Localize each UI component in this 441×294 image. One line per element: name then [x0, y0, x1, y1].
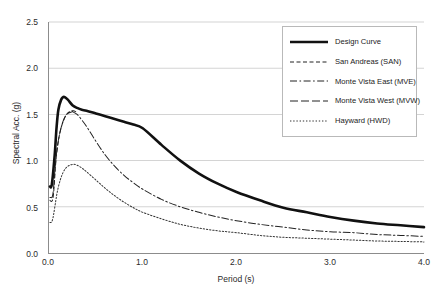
- legend-line-swatch: [290, 76, 328, 86]
- x-axis-tick-label: 3.0: [324, 258, 336, 267]
- legend-item-label: Monte Vista East (MVE): [335, 78, 416, 86]
- legend-item-label: Hayward (HWD): [335, 117, 390, 125]
- y-axis-tick-label: 0.0: [26, 250, 38, 259]
- y-axis-tick-label: 2.0: [26, 64, 38, 73]
- series-line-hayward-hwd: [50, 164, 424, 242]
- series-line-monte-vista-west-mvw: [50, 112, 73, 198]
- x-axis-tick-label: 4.0: [418, 258, 430, 267]
- legend-item[interactable]: San Andreas (SAN): [290, 53, 410, 71]
- legend-item-label: Monte Vista West (MVW): [335, 97, 420, 105]
- x-axis-tick-label: 2.0: [230, 258, 242, 267]
- y-axis-tick-label: 1.5: [26, 111, 38, 120]
- y-axis-tick-label: 0.5: [26, 204, 38, 213]
- x-axis-tick-label: 1.0: [136, 258, 148, 267]
- chart-legend: Design CurveSan Andreas (SAN)Monte Vista…: [282, 26, 417, 137]
- spectral-acceleration-chart: 0.00.51.01.52.02.5 0.01.02.03.04.0 Perio…: [0, 0, 441, 294]
- legend-item[interactable]: Design Curve: [290, 33, 410, 51]
- y-axis-tick-label: 1.0: [26, 157, 38, 166]
- legend-line-swatch: [290, 116, 328, 126]
- x-axis-title: Period (s): [48, 274, 424, 284]
- y-axis-tick-labels: 0.00.51.01.52.02.5: [0, 22, 44, 254]
- legend-item[interactable]: Monte Vista East (MVE): [290, 72, 410, 90]
- legend-line-swatch: [290, 37, 328, 47]
- legend-item[interactable]: Hayward (HWD): [290, 112, 410, 130]
- legend-item-label: San Andreas (SAN): [335, 58, 401, 66]
- y-axis-tick-label: 2.5: [26, 18, 38, 27]
- legend-item-label: Design Curve: [335, 38, 381, 46]
- x-axis-tick-label: 0.0: [42, 258, 54, 267]
- y-axis-title: Spectral Acc. (g): [11, 73, 21, 193]
- x-axis-tick-labels: 0.01.02.03.04.0: [48, 258, 424, 272]
- legend-line-swatch: [290, 57, 328, 67]
- legend-line-swatch: [290, 96, 328, 106]
- legend-item[interactable]: Monte Vista West (MVW): [290, 92, 410, 110]
